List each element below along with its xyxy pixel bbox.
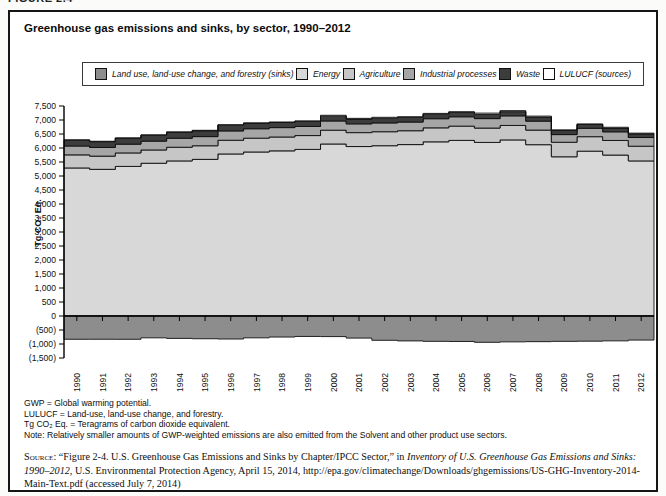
- x-tick-label: 2010: [585, 373, 595, 392]
- x-tick-label: 2003: [406, 373, 416, 392]
- legend-item: Industrial processes: [403, 68, 496, 80]
- x-tick-label: 2000: [329, 373, 339, 392]
- figure-label-text: FIGURE 2.4: [8, 0, 168, 4]
- x-tick-label: 1992: [123, 373, 133, 392]
- legend-item: LULUCF (sources): [543, 68, 631, 80]
- legend-swatch: [95, 68, 107, 80]
- legend-item: Waste: [499, 68, 540, 80]
- y-tick-label: 500: [42, 297, 57, 307]
- source-text-after: , U.S. Environmental Protection Agency, …: [24, 465, 640, 490]
- x-tick-label: 1998: [277, 373, 287, 392]
- y-tick-label: 1,000: [34, 283, 56, 293]
- x-tick-label: 2011: [611, 373, 621, 392]
- y-tick-label: (1,000): [29, 339, 56, 349]
- y-tick-label: 1,500: [34, 269, 56, 279]
- footnote-line: Note: Relatively smaller amounts of GWP-…: [24, 430, 646, 441]
- emissions-stacked-area-chart: 1990199119921993199419951996199719981999…: [10, 90, 656, 398]
- source-label: Source:: [24, 451, 56, 462]
- legend-swatch: [296, 68, 308, 80]
- y-tick-label: 7,500: [34, 101, 56, 111]
- legend-label: Waste: [516, 69, 540, 79]
- footnote-line: Tg CO₂ Eq. = Teragrams of carbon dioxide…: [24, 419, 646, 430]
- chart-area: Tg CO₂ Eq. 19901991199219931994199519961…: [10, 90, 656, 398]
- x-tick-label: 2009: [559, 373, 569, 392]
- y-tick-label: 2,000: [34, 255, 56, 265]
- footnotes: GWP = Global warming potential. LULUCF =…: [24, 398, 646, 440]
- x-tick-label: 2012: [636, 373, 646, 392]
- source-text-before: “Figure 2-4. U.S. Greenhouse Gas Emissio…: [59, 451, 407, 462]
- footnote-line: GWP = Global warming potential.: [24, 398, 646, 409]
- x-tick-label: 2007: [508, 373, 518, 392]
- x-tick-label: 2005: [457, 373, 467, 392]
- chart-title: Greenhouse gas emissions and sinks, by s…: [24, 22, 351, 34]
- legend-label: Land use, land-use change, and forestry …: [112, 69, 294, 79]
- x-tick-label: 2008: [534, 373, 544, 392]
- legend-label: Energy: [313, 69, 340, 79]
- x-tick-label: 2001: [354, 373, 364, 392]
- footnote-line: LULUCF = Land-use, land-use change, and …: [24, 409, 646, 420]
- y-tick-label: 5,500: [34, 157, 56, 167]
- legend-item: Agriculture: [343, 68, 401, 80]
- source-note: Source: “Figure 2-4. U.S. Greenhouse Gas…: [24, 450, 644, 491]
- y-tick-label: (1,500): [29, 353, 56, 363]
- area-energy: [64, 140, 654, 316]
- x-tick-label: 2004: [431, 373, 441, 392]
- figure-label-clipped: FIGURE 2.4: [8, 0, 168, 5]
- y-tick-label: 6,500: [34, 129, 56, 139]
- x-tick-label: 2002: [380, 373, 390, 392]
- x-tick-label: 1994: [175, 373, 185, 392]
- y-axis-label: Tg CO₂ Eq.: [33, 193, 43, 253]
- legend-swatch: [403, 68, 415, 80]
- x-tick-label: 1991: [98, 373, 108, 392]
- legend-swatch: [543, 68, 555, 80]
- y-tick-label: 5,000: [34, 171, 56, 181]
- legend-swatch: [499, 68, 511, 80]
- legend-item: Energy: [296, 68, 340, 80]
- figure-panel: Greenhouse gas emissions and sinks, by s…: [8, 10, 658, 492]
- x-tick-label: 1996: [226, 373, 236, 392]
- legend-label: Agriculture: [360, 69, 401, 79]
- legend-label: Industrial processes: [420, 69, 496, 79]
- x-tick-label: 1999: [303, 373, 313, 392]
- x-tick-label: 1993: [149, 373, 159, 392]
- legend-box: Land use, land-use change, and forestry …: [82, 62, 644, 86]
- y-tick-label: (500): [36, 325, 56, 335]
- y-tick-label: 7,000: [34, 115, 56, 125]
- page: { "figure_label": "FIGURE 2.4", "panel":…: [0, 0, 666, 496]
- x-tick-label: 1990: [72, 373, 82, 392]
- x-tick-label: 1997: [252, 373, 262, 392]
- y-tick-label: 0: [51, 311, 56, 321]
- x-tick-label: 2006: [482, 373, 492, 392]
- y-tick-label: 6,000: [34, 143, 56, 153]
- x-tick-label: 1995: [200, 373, 210, 392]
- legend-item: Land use, land-use change, and forestry …: [95, 68, 294, 80]
- legend-swatch: [343, 68, 355, 80]
- legend-label: LULUCF (sources): [560, 69, 631, 79]
